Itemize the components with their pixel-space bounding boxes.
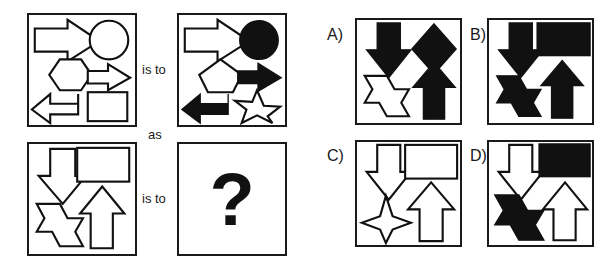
rectangle-filled-icon [539, 144, 590, 177]
left-arrow-filled-icon [182, 94, 228, 123]
option-panel-a[interactable] [355, 18, 462, 125]
rectangle-filled-icon [537, 23, 590, 56]
matrix-panel-bottom-right-unknown[interactable]: ? [177, 142, 287, 256]
right-arrow-small-filled-icon [238, 63, 281, 91]
star-6-filled-icon [497, 76, 541, 116]
option-label-b: B) [470, 27, 486, 43]
panel-bottom-left-shapes [29, 144, 135, 254]
matrix-panel-top-left[interactable] [27, 13, 137, 127]
pentagon-icon [199, 59, 241, 92]
circle-icon [90, 21, 129, 60]
down-arrow-filled-icon [367, 23, 411, 78]
square-icon [88, 92, 128, 121]
option-label-a: A) [327, 27, 343, 43]
option-c-shapes [357, 142, 460, 245]
down-arrow-filled-icon [499, 23, 543, 78]
panel-top-right-shapes [179, 15, 285, 125]
option-panel-d[interactable] [487, 140, 594, 247]
option-panel-b[interactable] [487, 18, 594, 125]
up-arrow-icon [543, 182, 587, 240]
left-arrow-icon [32, 94, 78, 123]
option-label-c: C) [327, 148, 344, 164]
star-6-filled-icon [495, 195, 544, 240]
relation-label-is-to-bottom: is to [142, 192, 166, 205]
circle-filled-icon [240, 21, 279, 60]
star-5-icon [235, 90, 280, 123]
star-6-icon [365, 76, 409, 116]
hexagon-icon [49, 59, 91, 90]
rectangle-icon [405, 145, 457, 179]
star-4-icon [362, 196, 411, 243]
puzzle-stage: is to as is to ? A) [0, 0, 596, 270]
option-a-shapes [357, 20, 460, 123]
option-b-shapes [489, 20, 592, 123]
up-arrow-icon [408, 182, 454, 241]
rectangle-icon [77, 148, 129, 182]
panel-top-left-shapes [29, 15, 135, 125]
option-d-shapes [489, 142, 592, 245]
up-arrow-filled-icon [413, 62, 455, 119]
relation-label-as: as [148, 128, 162, 141]
question-mark: ? [179, 144, 285, 254]
star-6-icon [37, 204, 83, 246]
option-panel-c[interactable] [355, 140, 462, 247]
relation-label-is-to-top: is to [142, 63, 166, 76]
option-label-d: D) [470, 148, 487, 164]
matrix-panel-top-right[interactable] [177, 13, 287, 127]
matrix-panel-bottom-left[interactable] [27, 142, 137, 256]
down-arrow-icon [499, 145, 543, 200]
right-arrow-small-icon [88, 64, 130, 90]
up-arrow-icon [80, 186, 124, 248]
up-arrow-filled-icon [541, 60, 583, 118]
